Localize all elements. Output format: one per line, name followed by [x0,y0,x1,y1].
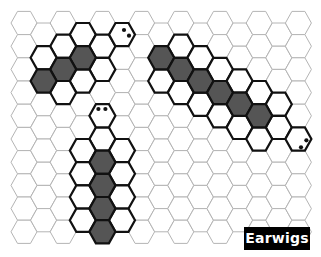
eye-dot-icon [127,34,131,38]
earwig-bottom-body-segment[interactable] [89,151,115,174]
earwig-top-left-body-segment[interactable] [31,69,57,92]
earwig-bottom-body-segment[interactable] [89,197,115,220]
hex-board[interactable] [0,0,321,257]
game-title-label: Earwigs [244,227,310,250]
earwig-right-body-segment[interactable] [246,104,272,127]
earwig-right-outline-cell[interactable] [246,127,272,150]
eye-dot-icon [304,138,308,142]
earwig-bottom-head[interactable] [89,104,115,127]
eye-dot-icon [122,28,126,32]
earwig-bottom-body-segment[interactable] [89,220,115,243]
eye-dot-icon [96,107,100,111]
earwig-bottom-body-segment[interactable] [89,174,115,197]
earwig-top-left-head[interactable] [109,23,135,46]
eye-dot-icon [103,107,107,111]
eye-dot-icon [299,145,303,149]
